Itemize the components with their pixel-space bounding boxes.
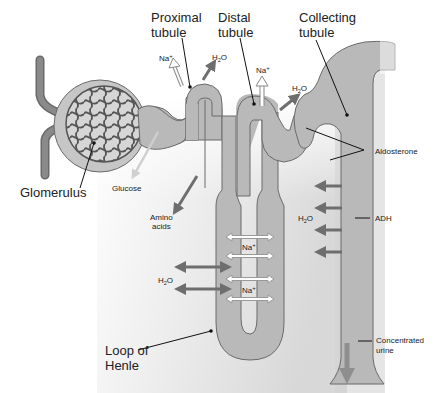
label-collecting-tubule-line2: tubule xyxy=(299,25,334,40)
label-h2o-distal: H2O xyxy=(292,84,307,94)
label-glomerulus: Glomerulus xyxy=(20,185,87,200)
label-na-distal: Na+ xyxy=(256,65,270,75)
label-collecting-tubule-line1: Collecting xyxy=(299,10,356,25)
label-h2o-proximal: H2O xyxy=(212,53,227,63)
label-distal-tubule-line1: Distal xyxy=(218,10,251,25)
nephron-diagram: Proximal tubule Distal tubule Collecting… xyxy=(0,0,438,393)
label-amino-acids-line1: Amino xyxy=(150,213,173,222)
label-glucose: Glucose xyxy=(112,184,142,193)
label-distal-tubule-line2: tubule xyxy=(218,25,253,40)
label-proximal-tubule-line2: tubule xyxy=(151,25,186,40)
label-adh: ADH xyxy=(375,214,392,223)
label-concentrated-urine-line2: urine xyxy=(376,346,394,355)
label-amino-acids-line2: acids xyxy=(152,222,171,231)
label-loop-of-henle-line2: Henle xyxy=(105,358,139,373)
label-concentrated-urine-line1: Concentrated xyxy=(376,336,424,345)
label-loop-of-henle-line1: Loop of xyxy=(105,343,149,358)
label-aldosterone: Aldosterone xyxy=(375,147,418,156)
label-proximal-tubule-line1: Proximal xyxy=(151,10,202,25)
